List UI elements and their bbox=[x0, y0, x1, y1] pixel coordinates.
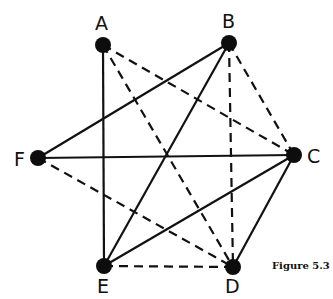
node-a bbox=[95, 37, 111, 53]
node-label-f: F bbox=[14, 148, 25, 170]
edge-e-d bbox=[104, 266, 233, 267]
edge-a-e bbox=[103, 45, 104, 266]
edge-f-d bbox=[38, 158, 233, 267]
node-label-e: E bbox=[97, 275, 109, 297]
graph-edges bbox=[38, 43, 294, 267]
edge-b-c bbox=[229, 43, 294, 155]
node-b bbox=[221, 35, 237, 51]
node-c bbox=[286, 147, 302, 163]
graph-diagram: ABCDEF bbox=[0, 0, 333, 299]
node-e bbox=[96, 258, 112, 274]
figure-caption: Figure 5.3 bbox=[272, 260, 330, 271]
node-label-c: C bbox=[307, 145, 320, 167]
node-label-d: D bbox=[225, 275, 240, 297]
node-label-b: B bbox=[222, 10, 235, 32]
node-label-a: A bbox=[95, 12, 108, 34]
node-f bbox=[30, 150, 46, 166]
node-d bbox=[225, 259, 241, 275]
